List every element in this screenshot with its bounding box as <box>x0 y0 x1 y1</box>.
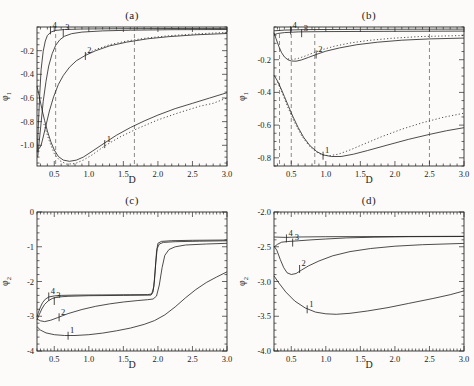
subplot-b-ylabel-subscript: 1 <box>242 92 249 95</box>
subplot-b-curve-1-dotted <box>278 82 465 156</box>
subplot-d-frame <box>274 212 464 351</box>
subplot-a-curve-1-dotted <box>44 98 227 164</box>
subplot-a-curve-4 <box>37 28 227 152</box>
svg-text:-0.4: -0.4 <box>21 69 35 79</box>
subplot-c-curve-2 <box>37 243 227 321</box>
subplot-b-curve-1 <box>274 75 464 156</box>
subplot-a-curve-2-dotted <box>85 32 227 54</box>
svg-text:-0.2: -0.2 <box>258 55 271 65</box>
subplot-a-curve-labels: 1234 <box>50 20 110 148</box>
subplot-b-dashed-guides <box>280 27 430 166</box>
subplot-b-frame <box>274 27 464 166</box>
subplot-c-ylabel-subscript: 2 <box>5 277 12 280</box>
svg-text:3: 3 <box>56 290 60 300</box>
svg-text:1: 1 <box>107 134 111 144</box>
subplot-d-curve-1 <box>274 276 464 314</box>
svg-text:3: 3 <box>295 232 299 242</box>
subplot-b: 0.51.01.52.02.53.0-0.2-0.4-0.6-0.81234 (… <box>237 0 474 193</box>
subplot-c: 0.51.01.52.02.53.00-1-2-3-41234 (c) φ2 D <box>0 193 237 386</box>
svg-text:-4.0: -4.0 <box>258 346 271 356</box>
svg-text:1: 1 <box>325 145 329 155</box>
svg-text:2: 2 <box>302 258 306 268</box>
subplot-a-ylabel: φ1 <box>0 89 12 105</box>
subplot-d-ylabel-symbol: φ <box>236 280 247 286</box>
svg-text:1: 1 <box>309 299 313 309</box>
subplot-b-title: (b) <box>274 9 464 21</box>
svg-text:2: 2 <box>87 45 91 55</box>
svg-text:-2.0: -2.0 <box>258 207 271 217</box>
subplot-a-xlabel: D <box>37 174 227 185</box>
svg-text:-3.5: -3.5 <box>258 311 271 321</box>
svg-text:1: 1 <box>70 325 74 335</box>
subplot-a-ytick-labels: -0.2-0.4-0.6-0.8-1.0 <box>21 46 35 151</box>
subplot-a-ticks <box>37 27 227 166</box>
subplot-d-ytick-labels: -2.0-2.5-3.0-3.5-4.0 <box>258 207 271 356</box>
subplot-d-ticks <box>274 212 464 351</box>
svg-text:-2.5: -2.5 <box>258 242 271 252</box>
subplot-c-ylabel: φ2 <box>0 274 12 290</box>
svg-text:3: 3 <box>304 23 308 33</box>
svg-text:0: 0 <box>30 207 34 217</box>
subplot-a-curve-3 <box>38 30 227 158</box>
svg-text:2: 2 <box>61 307 65 317</box>
subplot-a-ylabel-subscript: 1 <box>5 92 12 95</box>
subplot-d-curves <box>274 236 464 314</box>
subplot-c-curve-3 <box>37 241 227 320</box>
subplot-b-plot: 0.51.01.52.02.53.0-0.2-0.4-0.6-0.81234 <box>237 0 474 193</box>
subplot-a-curve-2 <box>39 34 227 149</box>
svg-text:-1: -1 <box>27 242 34 252</box>
subplot-d-curve-3 <box>274 237 464 248</box>
svg-text:-3.0: -3.0 <box>258 277 271 287</box>
subplot-c-ytick-labels: 0-1-2-3-4 <box>27 207 35 356</box>
subplot-d: 0.51.01.52.02.53.0-2.0-2.5-3.0-3.5-4.012… <box>237 193 474 386</box>
subplot-c-curve-4 <box>37 240 227 317</box>
subplot-c-plot: 0.51.01.52.02.53.00-1-2-3-41234 <box>0 193 237 386</box>
subplot-a-plot: 0.51.01.52.02.53.0-0.2-0.4-0.6-0.8-1.012… <box>0 0 237 193</box>
subplot-b-ytick-labels: -0.2-0.4-0.6-0.8 <box>258 55 272 163</box>
svg-text:4: 4 <box>52 20 57 30</box>
svg-text:4: 4 <box>293 20 298 30</box>
subplot-c-ylabel-symbol: φ <box>0 280 10 286</box>
subplot-c-ticks <box>37 212 227 351</box>
subplot-c-curve-1 <box>37 272 227 336</box>
subplot-b-ticks <box>274 27 464 166</box>
subplot-d-ylabel-subscript: 2 <box>242 277 249 280</box>
subplot-b-curve-4 <box>274 29 464 31</box>
svg-text:-0.4: -0.4 <box>258 87 272 97</box>
svg-text:4: 4 <box>288 228 293 238</box>
subplot-b-curve-3 <box>274 31 464 35</box>
subplot-a-ylabel-symbol: φ <box>0 95 10 101</box>
subplot-a-dashed-guides <box>56 27 135 166</box>
svg-text:-0.8: -0.8 <box>21 117 34 127</box>
subplot-b-curve-2 <box>274 33 464 62</box>
svg-text:2: 2 <box>318 44 322 54</box>
svg-text:-0.2: -0.2 <box>21 46 34 56</box>
subplot-b-curves <box>274 29 464 156</box>
svg-text:-0.6: -0.6 <box>258 120 271 130</box>
figure: 0.51.01.52.02.53.0-0.2-0.4-0.6-0.8-1.012… <box>0 0 474 386</box>
subplot-c-title: (c) <box>37 194 227 206</box>
subplot-b-ylabel-symbol: φ <box>236 95 247 101</box>
subplot-b-ylabel: φ1 <box>236 89 249 105</box>
subplot-d-title: (d) <box>274 194 464 206</box>
subplot-a-curves <box>37 28 227 164</box>
svg-text:-4: -4 <box>27 346 35 356</box>
subplot-b-xlabel: D <box>274 174 464 185</box>
subplot-a: 0.51.01.52.02.53.0-0.2-0.4-0.6-0.8-1.012… <box>0 0 237 193</box>
subplot-d-ylabel: φ2 <box>236 274 249 290</box>
subplot-d-plot: 0.51.01.52.02.53.0-2.0-2.5-3.0-3.5-4.012… <box>237 193 474 386</box>
svg-text:-3: -3 <box>27 311 34 321</box>
svg-text:3: 3 <box>65 22 69 32</box>
subplot-c-frame <box>37 212 227 351</box>
subplot-c-xlabel: D <box>37 359 227 370</box>
subplot-c-curves <box>37 240 227 336</box>
svg-text:-2: -2 <box>27 277 34 287</box>
svg-text:-1.0: -1.0 <box>21 140 34 150</box>
subplot-a-curve-1 <box>37 86 227 161</box>
subplot-a-frame <box>37 27 227 166</box>
subplot-d-xlabel: D <box>274 359 464 370</box>
svg-text:-0.6: -0.6 <box>21 93 34 103</box>
svg-text:4: 4 <box>51 286 56 296</box>
svg-text:-0.8: -0.8 <box>258 153 271 163</box>
subplot-a-title: (a) <box>37 9 227 21</box>
